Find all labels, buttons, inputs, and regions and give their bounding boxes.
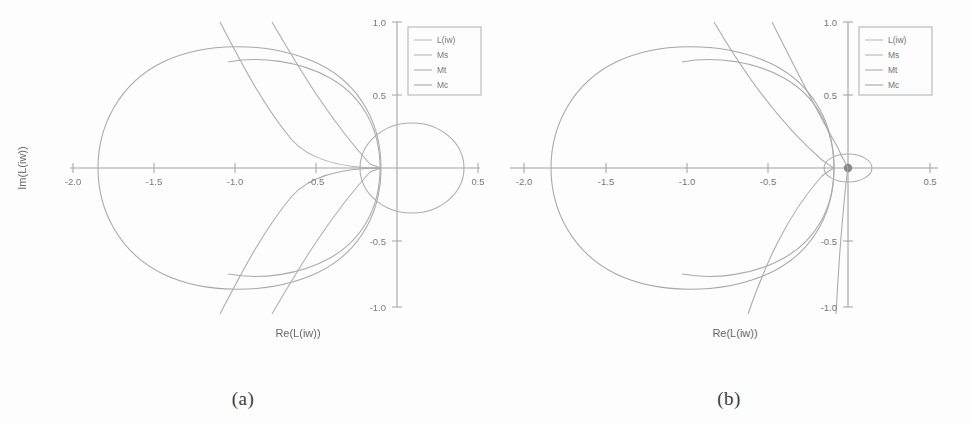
y-axis-title-a: Im(L(iw)): [16, 146, 28, 189]
y-tick-label-a-3: -0.5: [370, 236, 386, 247]
curve-ms-lower-b: [682, 168, 834, 276]
nyquist-plot-a: -2.0 -1.5 -1.0 -0.5 0.5 1.0 0.5 -0.5 -1.…: [0, 0, 486, 424]
legend-label-a-ms: Ms: [437, 50, 448, 60]
x-tick-label-a-4: -0.5: [308, 176, 324, 187]
figure-container: -2.0 -1.5 -1.0 -0.5 0.5 1.0 0.5 -0.5 -1.…: [0, 0, 972, 424]
legend-label-b-mc: Mc: [888, 80, 900, 90]
curve-mc-upper-left-b: [714, 22, 834, 168]
panel-b: -2.0 -1.5 -1.0 -0.5 0.5 1.0 0.5 -0.5 -1.…: [486, 0, 972, 424]
curve-mc-upper-right-a: [272, 22, 381, 168]
y-tick-label-b-4: -1.0: [821, 302, 837, 313]
x-tick-label-b-4: -0.5: [760, 176, 776, 187]
panel-a: -2.0 -1.5 -1.0 -0.5 0.5 1.0 0.5 -0.5 -1.…: [0, 0, 486, 424]
legend-label-b-mt: Mt: [888, 65, 898, 75]
panel-caption-a: (a): [0, 388, 486, 410]
curve-mc-lower-right-a: [272, 168, 381, 314]
y-tick-label-b-2: 0.5: [824, 90, 837, 101]
y-tick-label-a-1: 1.0: [373, 17, 386, 28]
legend-label-a-mt: Mt: [437, 65, 447, 75]
y-tick-label-a-4: -1.0: [370, 302, 386, 313]
x-tick-label-b-1: -2.0: [516, 176, 532, 187]
legend-label-a-mc: Mc: [437, 80, 449, 90]
x-tick-label-a-1: -2.0: [65, 176, 81, 187]
y-tick-label-b-3: -0.5: [821, 236, 837, 247]
legend-label-b-l-iw: L(iw): [888, 35, 907, 45]
x-tick-label-a-2: -1.5: [146, 176, 162, 187]
x-tick-label-b-5: 0.5: [923, 176, 936, 187]
panel-caption-b: (b): [486, 388, 972, 410]
y-tick-label-b-1: 1.0: [824, 17, 837, 28]
x-tick-label-a-5: 0.5: [471, 176, 484, 187]
curve-ms-upper-b: [682, 60, 834, 168]
x-tick-label-a-3: -1.0: [227, 176, 243, 187]
x-tick-label-b-2: -1.5: [598, 176, 614, 187]
x-tick-label-b-3: -1.0: [679, 176, 695, 187]
legend-label-b-ms: Ms: [888, 50, 899, 60]
y-tick-label-a-2: 0.5: [373, 90, 386, 101]
nyquist-plot-b: -2.0 -1.5 -1.0 -0.5 0.5 1.0 0.5 -0.5 -1.…: [486, 0, 972, 424]
legend-label-a-l-iw: L(iw): [437, 35, 456, 45]
x-axis-title-b: Re(L(iw)): [712, 327, 757, 339]
x-axis-title-a: Re(L(iw)): [275, 327, 320, 339]
